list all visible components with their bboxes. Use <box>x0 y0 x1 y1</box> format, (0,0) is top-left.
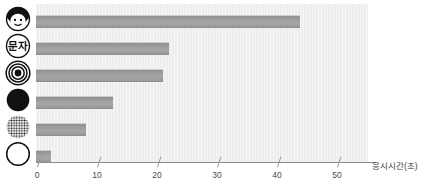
category-icon-outline-circle <box>3 141 33 167</box>
category-icon-bullseye <box>3 60 33 86</box>
x-axis-tick-label: 40 <box>262 170 292 180</box>
x-axis-tick-label: 20 <box>142 170 172 180</box>
x-axis-title: 응시시간(초) <box>372 159 418 171</box>
outline-circle-icon <box>5 141 31 167</box>
halftone-dots-circle-icon <box>5 114 31 140</box>
bar-face <box>36 15 300 28</box>
category-icon-text-circle: 문자 <box>3 33 33 59</box>
text-circle-icon-label: 문자 <box>8 40 28 52</box>
bullseye-icon <box>5 60 31 86</box>
x-axis-tick-label: 10 <box>82 170 112 180</box>
horizontal-bar-chart: 문자 <box>0 0 432 194</box>
bar-text-circle <box>36 42 169 55</box>
x-axis-line <box>36 162 376 163</box>
category-icon-face <box>3 6 33 32</box>
bar-halftone <box>36 123 86 136</box>
category-icon-axis: 문자 <box>0 6 36 174</box>
x-axis-tick-label: 0 <box>22 170 52 180</box>
text-circle-icon: 문자 <box>5 33 31 59</box>
filled-circle-icon <box>5 87 31 113</box>
bar-bullseye <box>36 69 163 82</box>
bar-filled-circle <box>36 96 113 109</box>
category-icon-halftone <box>3 114 33 140</box>
x-axis-tick-label: 30 <box>202 170 232 180</box>
plot-area <box>36 4 368 162</box>
x-axis-tick-label: 50 <box>322 170 352 180</box>
category-icon-filled-circle <box>3 87 33 113</box>
face-icon <box>5 6 31 32</box>
